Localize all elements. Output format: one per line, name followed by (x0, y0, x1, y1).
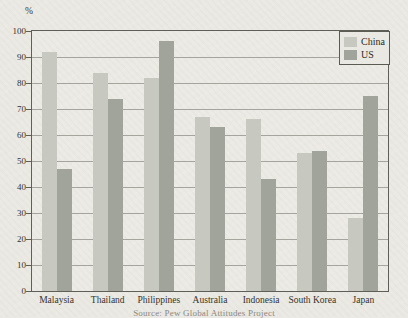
y-tick-label-100: 100 (0, 26, 26, 37)
bar-group-indonesia (235, 31, 286, 291)
legend-label-china: China (361, 36, 385, 48)
bar-group-australia (185, 31, 236, 291)
x-label-south-korea: South Korea (287, 295, 338, 305)
y-tick-mark-70 (26, 109, 31, 110)
y-tick-label-40: 40 (0, 182, 26, 193)
bar-us-indonesia (261, 179, 276, 291)
y-tick-label-20: 20 (0, 234, 26, 245)
y-tick-label-30: 30 (0, 208, 26, 219)
y-tick-mark-10 (26, 265, 31, 266)
bar-group-japan (337, 31, 388, 291)
bar-us-malaysia (57, 169, 72, 291)
bar-group-malaysia (32, 31, 83, 291)
x-axis-labels: MalaysiaThailandPhilippinesAustraliaIndo… (31, 295, 389, 305)
legend: ChinaUS (339, 31, 390, 65)
bar-us-south-korea (312, 151, 327, 291)
bar-groups-container (32, 31, 388, 291)
y-tick-mark-0 (26, 291, 31, 292)
x-label-indonesia: Indonesia (236, 295, 287, 305)
bar-group-philippines (134, 31, 185, 291)
y-axis-unit-label: % (20, 6, 38, 16)
x-label-australia: Australia (184, 295, 235, 305)
bar-us-australia (210, 127, 225, 291)
y-tick-mark-50 (26, 161, 31, 162)
y-tick-mark-60 (26, 135, 31, 136)
plot-area (31, 30, 389, 292)
y-tick-label-50: 50 (0, 156, 26, 167)
legend-swatch-china (344, 37, 357, 47)
bar-group-south-korea (286, 31, 337, 291)
bar-china-philippines (144, 78, 159, 291)
y-tick-label-70: 70 (0, 104, 26, 115)
x-label-japan: Japan (338, 295, 389, 305)
bar-china-malaysia (42, 52, 57, 291)
bar-us-philippines (159, 41, 174, 291)
y-tick-mark-80 (26, 83, 31, 84)
y-tick-label-10: 10 (0, 260, 26, 271)
bar-us-thailand (108, 99, 123, 291)
y-tick-label-80: 80 (0, 78, 26, 89)
y-tick-mark-30 (26, 213, 31, 214)
bar-china-indonesia (246, 119, 261, 291)
bar-us-japan (363, 96, 378, 291)
bar-china-japan (348, 218, 363, 291)
source-caption: Source: Pew Global Attitudes Project (0, 308, 408, 318)
bar-china-south-korea (297, 153, 312, 291)
legend-swatch-us (344, 50, 357, 60)
y-tick-mark-20 (26, 239, 31, 240)
bar-china-thailand (93, 73, 108, 291)
legend-label-us: US (361, 49, 374, 61)
legend-entry-china: China (344, 36, 385, 48)
x-label-thailand: Thailand (82, 295, 133, 305)
x-label-malaysia: Malaysia (31, 295, 82, 305)
legend-entry-us: US (344, 49, 385, 61)
bar-group-thailand (83, 31, 134, 291)
y-tick-label-60: 60 (0, 130, 26, 141)
y-tick-mark-100 (26, 31, 31, 32)
y-tick-label-90: 90 (0, 52, 26, 63)
y-tick-mark-40 (26, 187, 31, 188)
x-label-philippines: Philippines (133, 295, 184, 305)
y-tick-mark-90 (26, 57, 31, 58)
bar-china-australia (195, 117, 210, 291)
y-tick-label-0: 0 (0, 286, 26, 297)
